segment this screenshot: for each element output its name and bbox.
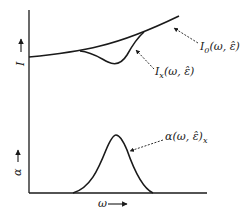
pointer-I0 [174,28,198,43]
y-axis-label-intensity: I [15,62,26,66]
x-axis-label-omega: ω [98,198,107,209]
label-alpha-base: α(ω, ε̂) [165,130,203,143]
x-label-omega: ω [98,197,107,210]
diagram-canvas [0,0,241,214]
y-label-alpha: α [11,169,24,176]
label-I0-args: (ω, ε̂) [209,40,239,53]
y-label-I: I [14,62,27,66]
label-Ix: Ix(ω, ε̂) [155,66,194,80]
label-alpha-sub: x [203,136,208,145]
label-alpha: α(ω, ε̂)x [165,131,207,145]
label-Ix-args: (ω, ε̂) [164,65,194,78]
curve-alpha [73,135,153,193]
pointer-alpha [130,140,163,151]
pointer-Ix [136,50,154,69]
curve-I0 [29,16,179,57]
y-axis-label-alpha: α [12,169,23,176]
label-I0: I0(ω, ε̂) [200,41,240,55]
